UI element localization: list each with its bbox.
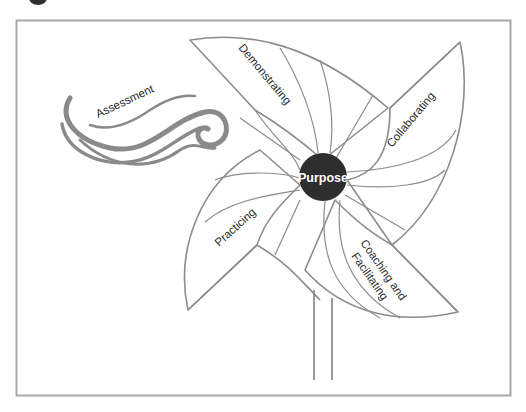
corner-badge-icon — [29, 0, 47, 5]
pinwheel-diagram: Assessment — [0, 0, 526, 412]
hub-label: Purpose — [298, 171, 348, 185]
